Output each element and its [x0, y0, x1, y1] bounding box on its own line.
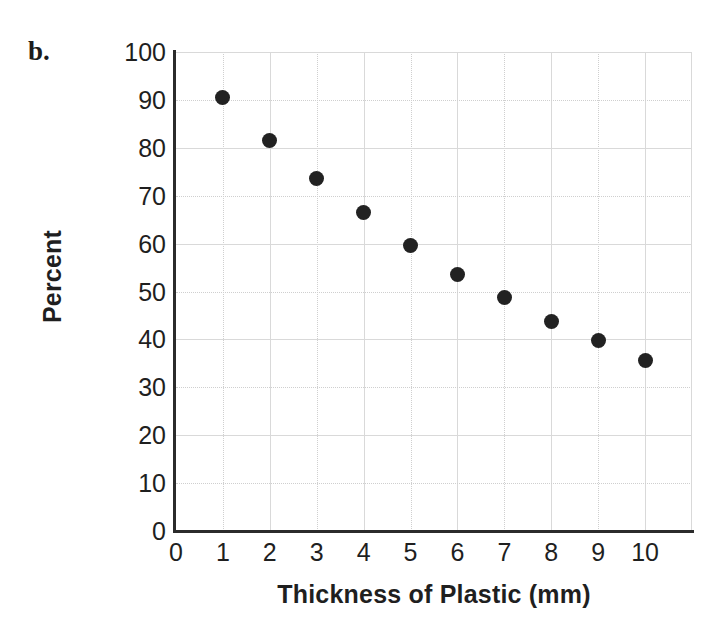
y-tick-label: 10 [110, 471, 166, 496]
x-axis-line [173, 530, 694, 533]
data-point [638, 353, 653, 368]
data-point [450, 267, 465, 282]
gridline-horizontal [176, 244, 692, 245]
gridline-horizontal [176, 339, 692, 340]
gridline-horizontal [176, 292, 692, 294]
plot-right-border [691, 52, 692, 531]
data-point [403, 238, 418, 253]
y-tick-label: 70 [110, 183, 166, 208]
gridline-horizontal [176, 148, 692, 149]
y-axis-tick-labels: 0102030405060708090100 [104, 52, 166, 531]
x-axis-tick-labels: 012345678910 [176, 540, 692, 572]
y-axis-line [173, 50, 176, 533]
y-tick-label: 20 [110, 423, 166, 448]
x-axis-title: Thickness of Plastic (mm) [176, 580, 692, 609]
y-tick-label: 50 [110, 279, 166, 304]
y-tick-label: 30 [110, 375, 166, 400]
gridline-horizontal [176, 435, 692, 436]
y-tick-label: 40 [110, 327, 166, 352]
data-point [262, 133, 277, 148]
data-point [591, 333, 606, 348]
scatter-plot-figure: b. 0102030405060708090100 012345678910 T… [0, 0, 728, 634]
gridline-horizontal [176, 196, 692, 198]
y-tick-label: 100 [110, 40, 166, 65]
data-point [497, 290, 512, 305]
data-point [356, 205, 371, 220]
data-point [309, 171, 324, 186]
y-tick-label: 80 [110, 135, 166, 160]
data-point [544, 314, 559, 329]
y-axis-title: Percent [38, 177, 67, 377]
gridline-horizontal [176, 483, 692, 485]
y-tick-label: 90 [110, 87, 166, 112]
part-label: b. [28, 36, 50, 67]
plot-area [176, 52, 692, 531]
gridline-horizontal [176, 387, 692, 389]
y-tick-label: 60 [110, 231, 166, 256]
gridline-horizontal [176, 52, 692, 53]
x-tick-label: 10 [615, 540, 675, 565]
gridline-horizontal [176, 100, 692, 102]
data-point [215, 90, 230, 105]
